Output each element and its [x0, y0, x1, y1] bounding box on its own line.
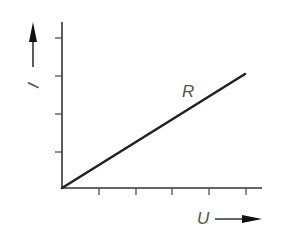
line-label-r: R [182, 82, 194, 101]
x-axis-label: U [197, 209, 210, 228]
ohms-law-diagram: R I U [0, 0, 288, 246]
y-ticks [55, 38, 62, 152]
x-ticks [99, 188, 246, 195]
arrow-right-icon [215, 215, 262, 223]
resistance-line [62, 74, 245, 188]
y-axis-label: I [24, 81, 44, 91]
arrow-up-icon [29, 22, 37, 67]
